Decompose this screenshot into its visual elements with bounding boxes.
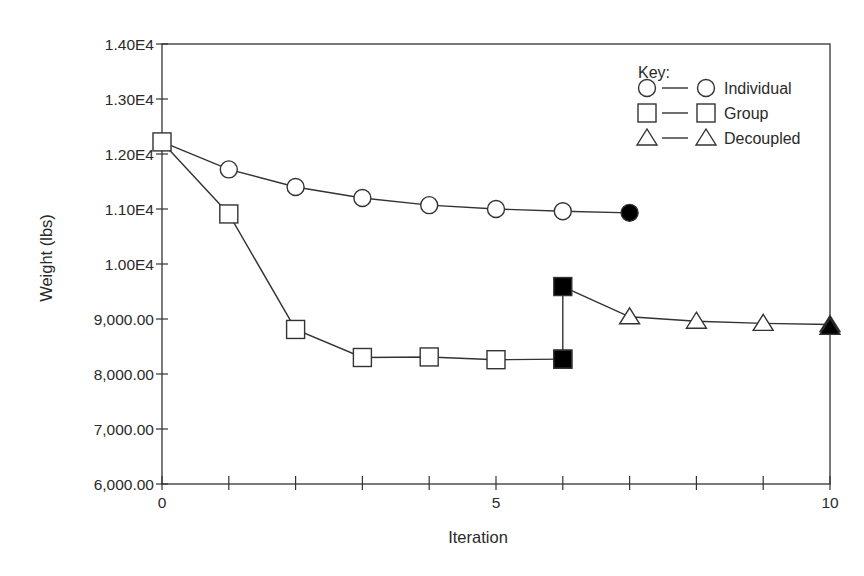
x-tick-label: 0 — [158, 494, 167, 511]
legend-label: Decoupled — [724, 130, 801, 147]
x-axis: 0510 — [158, 476, 839, 511]
x-tick-label: 5 — [492, 494, 501, 511]
square-marker-icon — [697, 104, 715, 122]
legend-title: Key: — [638, 64, 670, 81]
triangle-marker-icon — [637, 129, 657, 145]
circle-marker-icon — [354, 190, 371, 207]
y-tick-label: 1.00E4 — [105, 256, 155, 273]
y-tick-label: 1.20E4 — [105, 146, 155, 163]
triangle-marker-icon — [753, 314, 773, 330]
circle-marker-icon — [621, 204, 638, 221]
y-tick-label: 6,000.00 — [94, 476, 155, 493]
series-markers-group — [153, 133, 572, 369]
y-axis: 6,000.007,000.008,000.009,000.001.00E41.… — [94, 36, 168, 493]
square-marker-icon — [554, 278, 572, 296]
legend-item-decoupled: Decoupled — [637, 129, 801, 147]
series-layer — [153, 133, 840, 369]
y-tick-label: 8,000.00 — [94, 366, 155, 383]
series-markers-decoupled — [554, 278, 840, 369]
square-marker-icon — [554, 350, 572, 368]
circle-marker-icon — [554, 203, 571, 220]
square-marker-icon — [353, 349, 371, 367]
legend-label: Individual — [724, 80, 792, 97]
y-tick-label: 1.40E4 — [105, 36, 155, 53]
x-axis-title: Iteration — [448, 528, 508, 546]
triangle-marker-icon — [620, 308, 640, 324]
x-tick-label: 10 — [821, 494, 839, 511]
y-axis-title: Weight (lbs) — [37, 214, 55, 302]
square-marker-icon — [220, 205, 238, 223]
square-marker-icon — [487, 351, 505, 369]
y-tick-label: 9,000.00 — [94, 311, 155, 328]
y-tick-label: 1.10E4 — [105, 201, 155, 218]
y-tick-label: 7,000.00 — [94, 421, 155, 438]
legend-item-individual: Individual — [639, 80, 792, 98]
circle-marker-icon — [421, 197, 438, 214]
legend-label: Group — [724, 105, 769, 122]
circle-marker-icon — [220, 161, 237, 178]
circle-marker-icon — [698, 80, 715, 97]
circle-marker-icon — [639, 80, 656, 97]
circle-marker-icon — [287, 179, 304, 196]
circle-marker-icon — [488, 201, 505, 218]
square-marker-icon — [287, 320, 305, 338]
legend: Key:IndividualGroupDecoupled — [637, 64, 801, 147]
square-marker-icon — [420, 348, 438, 366]
y-tick-label: 1.30E4 — [105, 91, 155, 108]
triangle-marker-icon — [696, 129, 716, 145]
line-chart: 6,000.007,000.008,000.009,000.001.00E41.… — [0, 0, 864, 576]
legend-item-group: Group — [638, 104, 769, 122]
square-marker-icon — [153, 133, 171, 151]
square-marker-icon — [638, 104, 656, 122]
